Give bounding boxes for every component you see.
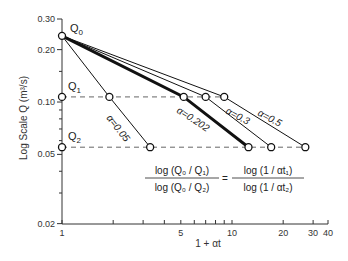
x-tick-label: 5: [178, 228, 183, 238]
series-label: α=0.3: [224, 105, 252, 127]
y-tick-label: 0.20: [37, 45, 55, 55]
equation-equals: =: [222, 173, 228, 184]
x-axis-label: 1 + αt: [195, 238, 221, 249]
equation-rhs-denominator: log (1 / αt₂): [243, 182, 292, 193]
annotations: α=0.05α=0.202α=0.3α=0.5Q0Q1Q2: [68, 22, 284, 145]
y-ticks: 0.300.200.100.050.02: [37, 14, 62, 229]
y-tick-label: 0.02: [37, 219, 55, 229]
reference-point-Q2: [59, 144, 66, 151]
data-point-marker: [180, 93, 187, 100]
series-lines: [62, 36, 305, 147]
chart: 0.300.200.100.050.02 1510203040 α=0.05α=…: [0, 0, 348, 261]
y-axis-label: Log Scale Q (m³/s): [18, 76, 29, 160]
data-point-marker: [202, 93, 209, 100]
reference-point-Q0: [59, 32, 66, 39]
data-point-marker: [245, 144, 252, 151]
x-tick-label: 20: [278, 228, 288, 238]
y-tick-label: 0.10: [37, 97, 55, 107]
data-point-marker: [268, 144, 275, 151]
x-tick-label: 40: [323, 228, 333, 238]
reference-point-label: Q2: [68, 130, 82, 145]
x-ticks: 1510203040: [59, 220, 333, 238]
x-tick-label: 1: [59, 228, 64, 238]
x-tick-label: 30: [308, 228, 318, 238]
reference-point-label: Q0: [70, 22, 84, 37]
equation: log (Q₀ / Q₁) log (Q₀ / Q₂) = log (1 / α…: [145, 165, 304, 193]
series-label: α=0.05: [104, 112, 132, 144]
y-tick-label: 0.05: [37, 149, 55, 159]
data-point-marker: [302, 144, 309, 151]
series-line: [62, 36, 248, 147]
axes: 0.300.200.100.050.02 1510203040: [37, 14, 333, 238]
equation-lhs-denominator: log (Q₀ / Q₂): [155, 182, 210, 193]
reference-point-Q1: [59, 93, 66, 100]
reference-point-label: Q1: [68, 80, 82, 95]
data-point-marker: [106, 93, 113, 100]
data-point-marker: [147, 144, 154, 151]
x-tick-label: 10: [227, 228, 237, 238]
equation-rhs-numerator: log (1 / αt₁): [244, 165, 293, 176]
equation-lhs-numerator: log (Q₀ / Q₁): [155, 165, 209, 176]
series-label: α=0.202: [175, 104, 212, 133]
data-point-marker: [221, 93, 228, 100]
y-tick-label: 0.30: [37, 14, 55, 24]
